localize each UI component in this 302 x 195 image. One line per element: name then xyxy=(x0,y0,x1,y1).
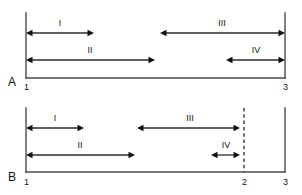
panel-letter-b: B xyxy=(8,170,16,184)
segment-label-iii: III xyxy=(218,18,226,28)
arrow-head-right xyxy=(234,125,241,131)
arrow-head-left xyxy=(211,152,218,158)
segment-iii: III xyxy=(160,18,285,36)
tick-label-3: 3 xyxy=(283,82,288,92)
segment-iv: IV xyxy=(226,45,285,63)
tick-label-3: 3 xyxy=(283,177,288,187)
arrow-head-left xyxy=(26,125,33,131)
segment-label-iv: IV xyxy=(252,45,261,55)
tick-label-2: 2 xyxy=(242,177,247,187)
arrow-head-left xyxy=(226,57,233,63)
segment-iii: III xyxy=(137,113,240,131)
arrow-head-right xyxy=(234,152,241,158)
tick-label-1: 1 xyxy=(24,82,29,92)
arrow-head-right xyxy=(78,125,85,131)
segment-label-iv: IV xyxy=(222,140,231,150)
segment-i: I xyxy=(26,18,94,36)
segment-label-ii: II xyxy=(87,45,92,55)
panel-a: 13IIIIIIIVA xyxy=(8,13,288,92)
arrow-head-right xyxy=(149,57,156,63)
arrow-head-right xyxy=(279,57,286,63)
panel-b: 123IIIIIIIVB xyxy=(8,108,288,187)
arrow-head-left xyxy=(26,152,33,158)
arrow-head-left xyxy=(137,125,144,131)
segment-iv: IV xyxy=(211,140,240,158)
arrow-head-right xyxy=(279,30,286,36)
segment-label-ii: II xyxy=(77,140,82,150)
segment-ii: II xyxy=(26,45,155,63)
segment-label-iii: III xyxy=(186,113,194,123)
arrow-head-right xyxy=(129,152,136,158)
arrow-head-left xyxy=(26,30,33,36)
segment-i: I xyxy=(26,113,84,131)
segment-label-i: I xyxy=(54,113,57,123)
arrow-head-left xyxy=(26,57,33,63)
panel-letter-a: A xyxy=(8,75,16,89)
diagram-canvas: 13IIIIIIIVA123IIIIIIIVB xyxy=(0,0,302,195)
arrow-head-left xyxy=(160,30,167,36)
tick-label-1: 1 xyxy=(24,177,29,187)
segment-label-i: I xyxy=(59,18,62,28)
segment-ii: II xyxy=(26,140,135,158)
interval-diagram-figure: 13IIIIIIIVA123IIIIIIIVB xyxy=(0,0,302,195)
arrow-head-right xyxy=(88,30,95,36)
